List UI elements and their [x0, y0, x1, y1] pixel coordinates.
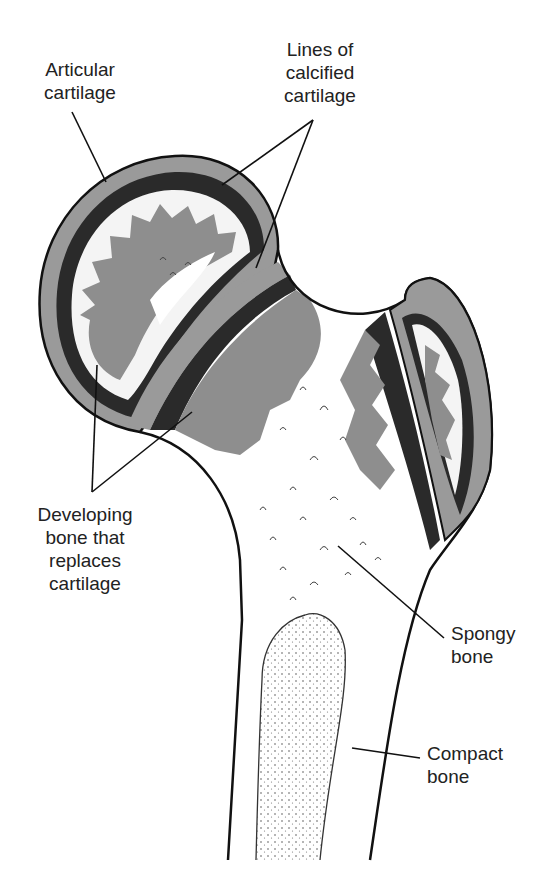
leader-calcified-1: [222, 120, 313, 185]
leader-articular: [72, 112, 106, 182]
label-spongy-bone: Spongy bone: [451, 622, 541, 668]
leader-spongy: [338, 546, 444, 638]
greater-trochanter: [340, 278, 492, 550]
leader-calcified-2: [256, 120, 313, 268]
label-lines-calcified-cartilage: Lines of calcified cartilage: [265, 38, 375, 107]
label-developing-bone: Developing bone that replaces cartilage: [25, 503, 145, 595]
medullary-cavity: [256, 614, 345, 860]
label-compact-bone: Compact bone: [427, 742, 527, 788]
label-articular-cartilage: Articular cartilage: [20, 58, 140, 104]
